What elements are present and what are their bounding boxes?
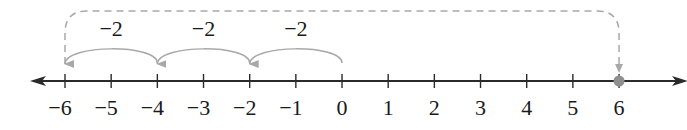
tick-label: −6 (48, 95, 71, 120)
tick-label: 6 (614, 95, 625, 120)
tick-label: −3 (187, 95, 210, 120)
tick-label: 5 (567, 95, 578, 120)
tick-label: 1 (383, 95, 394, 120)
point-marker (614, 76, 625, 87)
reflection-dashed-path (65, 11, 619, 66)
jump-label: −2 (192, 16, 215, 41)
tick-label: 2 (429, 95, 440, 120)
jump-label: −2 (99, 16, 122, 41)
tick-label: −2 (233, 95, 256, 120)
tick-label: 3 (475, 95, 486, 120)
jump-arc (65, 49, 157, 64)
tick-label: −4 (141, 95, 164, 120)
jump-arc (157, 49, 249, 64)
jump-label: −2 (284, 16, 307, 41)
tick-label: 4 (521, 95, 532, 120)
number-line-diagram: −6−5−4−3−2−10123456−2−2−2 (0, 0, 687, 130)
reflection-arrow-icon (615, 64, 623, 73)
jump-arc (250, 49, 342, 64)
tick-label: 0 (337, 95, 348, 120)
tick-label: −1 (279, 95, 302, 120)
tick-label: −5 (94, 95, 117, 120)
number-line-svg: −6−5−4−3−2−10123456−2−2−2 (0, 0, 687, 130)
